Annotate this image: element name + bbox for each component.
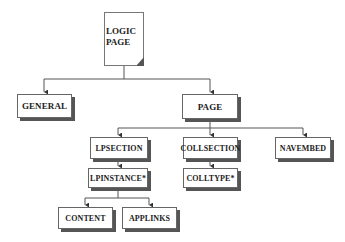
tree-diagram: LOGIC PAGE GENERAL PAGE LPSECTION COLLSE… <box>0 0 345 242</box>
node-navembed: NAVEMBED <box>275 137 331 159</box>
node-colltype: COLLTYPE* <box>183 168 238 188</box>
node-logic-page: LOGIC PAGE <box>104 12 144 66</box>
node-page: PAGE <box>182 94 238 119</box>
label-line-2: PAGE <box>106 37 144 48</box>
label-line-1: LOGIC <box>106 26 144 37</box>
node-lpsection: LPSECTION <box>90 137 148 159</box>
node-general: GENERAL <box>17 94 72 118</box>
connector-lines <box>0 0 345 242</box>
node-content: CONTENT <box>58 207 113 229</box>
node-lpinstance: LPINSTANCE* <box>88 168 148 188</box>
node-collsection: COLLSECTION <box>183 137 238 159</box>
node-applinks: APPLINKS <box>122 207 177 229</box>
node-logic-page-label: LOGIC PAGE <box>106 26 144 48</box>
